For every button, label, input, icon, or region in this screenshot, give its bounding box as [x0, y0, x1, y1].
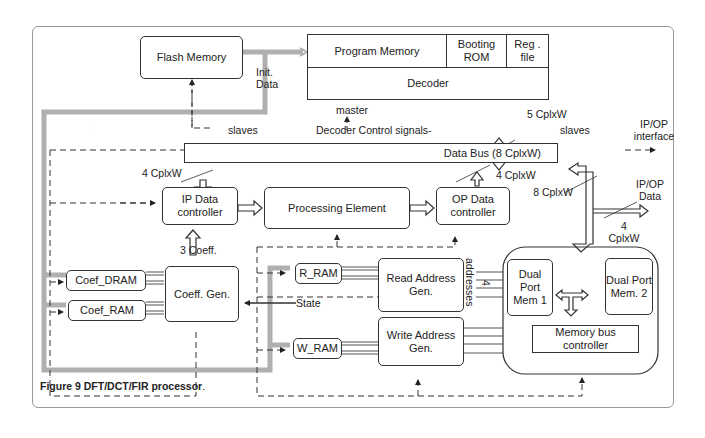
ip-op-interface-label: IP/OP interface	[630, 118, 678, 142]
coef-ram-block: Coef_RAM	[68, 300, 146, 321]
decoder-control-signals-label: Decoder Control signals-	[316, 124, 432, 136]
dual-port-mem-1-block: Dual Port Mem 1	[507, 259, 553, 316]
ip-data-controller-block: IP Data controller	[162, 187, 238, 225]
caption-text: DFT/DCT/FIR processor	[81, 380, 202, 392]
slaves-right-label: slaves	[560, 124, 590, 136]
ip-op-data-label: IP/OP Data	[630, 178, 670, 202]
figure-caption: Figure 9 DFT/DCT/FIR processor.	[40, 380, 205, 392]
three-coeff-label: 3 Coeff.	[180, 244, 217, 256]
write-address-gen-block: Write Address Gen.	[378, 317, 464, 366]
four-cplxw-op-label: 4 CplxW	[496, 169, 536, 181]
slaves-left-label: slaves	[228, 124, 258, 136]
decoder-block: Decoder	[307, 67, 549, 100]
read-address-gen-block: Read Address Gen.	[378, 258, 464, 312]
four-cplxw-data-label: 4 CplxW	[606, 220, 642, 244]
state-label: State	[296, 297, 321, 309]
data-bus: Data Bus (8 CplxW)	[184, 143, 558, 163]
w-ram-block: W_RAM	[293, 338, 342, 359]
flash-memory-block: Flash Memory	[140, 36, 243, 79]
coeff-gen-block: Coeff. Gen.	[165, 266, 239, 322]
reg-file-block: Reg . file	[506, 34, 549, 68]
booting-rom-block: Booting ROM	[446, 34, 507, 68]
program-memory-block: Program Memory	[307, 34, 447, 68]
dual-port-mem-2-block: Dual Port Mem. 2	[605, 258, 653, 315]
coef-dram-block: Coef_DRAM	[66, 270, 146, 291]
memory-bus-controller-block: Memory bus controller	[532, 325, 639, 353]
five-cplxw-label: 5 CplxW	[527, 108, 567, 120]
four-cplxw-ip-label: 4 CplxW	[142, 167, 182, 179]
master-label: master	[336, 104, 368, 116]
init-data-label: Init. Data	[256, 66, 286, 90]
four-addresses-label: 4	[480, 280, 492, 286]
processing-element-block: Processing Element	[264, 187, 410, 229]
addresses-label: addresses	[464, 258, 476, 306]
eight-cplxw-label: 8 CplxW	[533, 186, 573, 198]
r-ram-block: R_RAM	[295, 263, 342, 284]
caption-label: Figure 9	[40, 380, 81, 392]
op-data-controller-block: OP Data controller	[436, 187, 510, 225]
